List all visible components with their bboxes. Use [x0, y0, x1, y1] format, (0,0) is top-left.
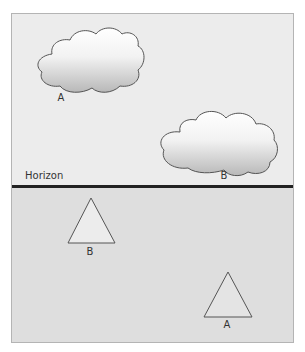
diagram-frame: Horizon A B B A [11, 13, 294, 343]
cloud-a [38, 28, 144, 92]
triangle-b [68, 198, 115, 243]
triangle-b-label: B [87, 246, 94, 257]
cloud-a-label: A [58, 92, 65, 103]
scene-shapes [12, 14, 294, 343]
cloud-b-label: B [221, 170, 228, 181]
triangle-a-label: A [224, 319, 231, 330]
cloud-b [161, 111, 278, 175]
triangle-a [204, 272, 252, 317]
